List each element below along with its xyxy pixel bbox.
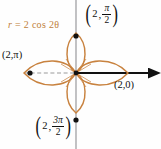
radius-value-bottom: 2: [42, 121, 47, 132]
equation-variable: r: [8, 19, 12, 30]
coordinate-pair-bottom: 2 , 3π 2: [42, 116, 64, 137]
angle-numerator-bottom: 3π: [52, 116, 64, 126]
angle-denominator-top: 2: [103, 15, 110, 25]
angle-fraction-bottom: 3π 2: [52, 116, 64, 137]
polar-rose-figure: r = 2 cos 2θ (2,0) (2,π) ( 2 , π 2 ) ( 2…: [0, 0, 161, 149]
paren-close-top: ): [113, 4, 118, 25]
point-marker-left: [27, 70, 32, 75]
angle-numerator-top: π: [103, 4, 110, 14]
paren-open-bottom: (: [35, 116, 40, 137]
equation-equals: =: [15, 19, 21, 30]
coordinate-pair-top: 2 , π 2: [92, 4, 111, 25]
point-label-bottom: ( 2 , 3π 2 ): [34, 116, 72, 137]
coordinate-separator-top: ,: [99, 9, 102, 20]
coordinate-separator-bottom: ,: [49, 121, 52, 132]
point-marker-top: [73, 33, 78, 38]
paren-open-top: (: [85, 4, 90, 25]
point-marker-bottom: [73, 117, 78, 122]
point-marker-origin: [74, 71, 79, 76]
angle-fraction-top: π 2: [102, 4, 111, 25]
point-label-left: (2,π): [2, 50, 22, 61]
point-label-right: (2,0): [114, 80, 134, 91]
paren-close-bottom: ): [65, 116, 70, 137]
point-label-top: ( 2 , π 2 ): [84, 4, 120, 25]
equation-label: r = 2 cos 2θ: [8, 20, 59, 30]
equation-expression: 2 cos 2θ: [24, 19, 60, 30]
angle-denominator-bottom: 2: [55, 127, 62, 137]
radius-value-top: 2: [92, 9, 97, 20]
